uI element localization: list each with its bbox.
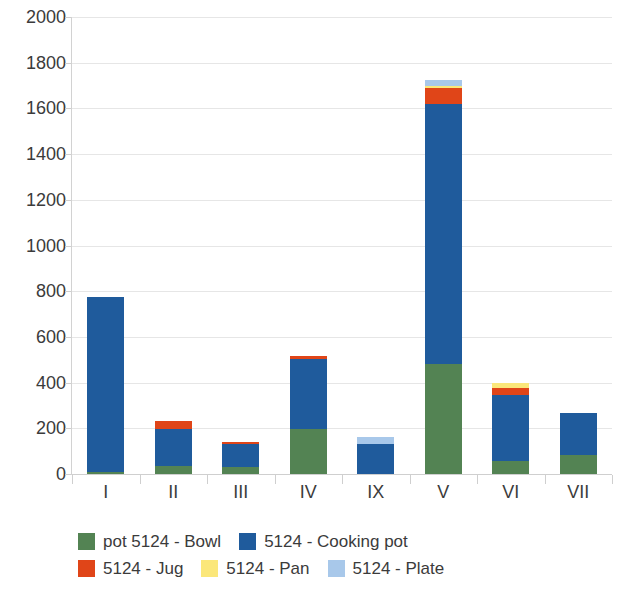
x-axis-tick-mark xyxy=(612,475,613,484)
y-axis-tick-label: 1200 xyxy=(4,191,66,209)
legend-item[interactable]: 5124 - Plate xyxy=(328,560,445,577)
legend-row: 5124 - Jug5124 - Pan5124 - Plate xyxy=(78,555,598,582)
legend-swatch-icon xyxy=(78,560,95,577)
bar-segment[interactable] xyxy=(492,461,529,474)
legend-label: 5124 - Jug xyxy=(103,560,183,577)
gridline xyxy=(72,154,612,155)
legend-label: 5124 - Cooking pot xyxy=(264,533,408,550)
y-axis: 2000180016001400120010008006004002000 xyxy=(0,0,66,592)
y-axis-tick-label: 400 xyxy=(4,374,66,392)
x-axis-tick-label: II xyxy=(140,483,208,503)
x-axis-tick-label: I xyxy=(72,483,140,503)
bar-stack[interactable] xyxy=(290,356,327,474)
legend-swatch-icon xyxy=(201,560,218,577)
bar-segment[interactable] xyxy=(155,429,192,466)
legend-swatch-icon xyxy=(239,533,256,550)
y-axis-tick-label: 1600 xyxy=(4,99,66,117)
legend-label: 5124 - Pan xyxy=(226,560,309,577)
bar-stack[interactable] xyxy=(492,383,529,474)
chart-legend: pot 5124 - Bowl5124 - Cooking pot5124 - … xyxy=(78,528,598,582)
legend-swatch-icon xyxy=(328,560,345,577)
gridline xyxy=(72,291,612,292)
y-axis-tick-label: 2000 xyxy=(4,8,66,26)
y-axis-tick-label: 1400 xyxy=(4,145,66,163)
bar-segment[interactable] xyxy=(492,388,529,395)
legend-swatch-icon xyxy=(78,533,95,550)
bar-stack[interactable] xyxy=(560,413,597,474)
bar-stack[interactable] xyxy=(222,442,259,474)
y-axis-tick-label: 200 xyxy=(4,419,66,437)
y-axis-tick-label: 600 xyxy=(4,328,66,346)
bar-segment[interactable] xyxy=(155,421,192,429)
x-axis-tick-label: IX xyxy=(342,483,410,503)
bar-stack[interactable] xyxy=(87,297,124,474)
x-axis-tick-label: IV xyxy=(275,483,343,503)
gridline xyxy=(72,337,612,338)
bar-segment[interactable] xyxy=(560,413,597,454)
bar-segment[interactable] xyxy=(87,297,124,472)
bar-segment[interactable] xyxy=(560,455,597,474)
bar-segment[interactable] xyxy=(155,466,192,474)
legend-item[interactable]: 5124 - Cooking pot xyxy=(239,533,408,550)
bar-segment[interactable] xyxy=(425,364,462,474)
legend-row: pot 5124 - Bowl5124 - Cooking pot xyxy=(78,528,598,555)
gridline xyxy=(72,17,612,18)
y-axis-tick-label: 1800 xyxy=(4,54,66,72)
gridline xyxy=(72,383,612,384)
stacked-bar-chart: 2000180016001400120010008006004002000 II… xyxy=(0,0,621,592)
bar-segment[interactable] xyxy=(222,467,259,474)
gridline xyxy=(72,428,612,429)
legend-item[interactable]: 5124 - Jug xyxy=(78,560,183,577)
bar-segment[interactable] xyxy=(357,444,394,474)
bar-stack[interactable] xyxy=(425,80,462,474)
gridline xyxy=(72,246,612,247)
legend-item[interactable]: pot 5124 - Bowl xyxy=(78,533,221,550)
plot-area xyxy=(72,17,612,474)
bar-segment[interactable] xyxy=(222,444,259,467)
bar-segment[interactable] xyxy=(425,104,462,364)
gridline xyxy=(72,108,612,109)
bar-segment[interactable] xyxy=(492,395,529,461)
x-axis-tick-label: VI xyxy=(477,483,545,503)
gridline xyxy=(72,63,612,64)
y-axis-tick-label: 1000 xyxy=(4,237,66,255)
x-axis-tick-label: III xyxy=(207,483,275,503)
gridline xyxy=(72,200,612,201)
bar-segment[interactable] xyxy=(357,437,394,444)
legend-item[interactable]: 5124 - Pan xyxy=(201,560,309,577)
bar-segment[interactable] xyxy=(425,88,462,104)
y-axis-tick-label: 800 xyxy=(4,282,66,300)
legend-label: pot 5124 - Bowl xyxy=(103,533,221,550)
x-axis-tick-label: V xyxy=(410,483,478,503)
y-axis-tick-label: 0 xyxy=(4,465,66,483)
bar-segment[interactable] xyxy=(290,359,327,430)
bar-stack[interactable] xyxy=(155,421,192,474)
legend-label: 5124 - Plate xyxy=(353,560,445,577)
x-axis-tick-label: VII xyxy=(545,483,613,503)
bar-stack[interactable] xyxy=(357,437,394,474)
bar-segment[interactable] xyxy=(290,429,327,474)
